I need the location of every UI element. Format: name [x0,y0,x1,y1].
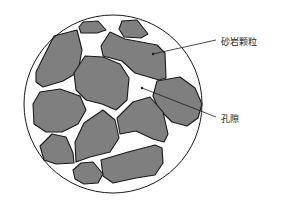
pore-leader-dot [141,87,143,89]
grain-leader-dot [152,53,154,55]
grain-label: 砂岩颗粒 [221,35,257,48]
grain [79,21,106,33]
pore-label: 孔隙 [221,112,239,125]
grain [40,134,74,164]
grain-leader-line [153,40,216,54]
sandstone-diagram [0,0,283,205]
grain [33,89,86,132]
grain [119,20,148,38]
grain [73,162,103,184]
